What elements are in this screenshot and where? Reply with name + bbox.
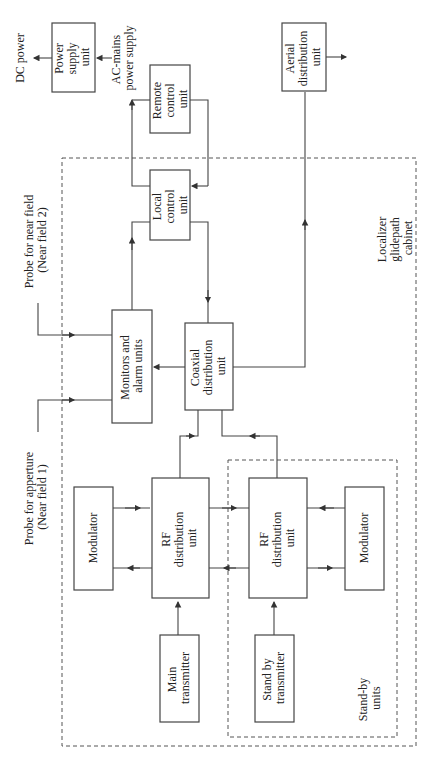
remote-control-unit: Remote control unit	[150, 65, 190, 133]
modulator-main: Modulator	[74, 487, 113, 590]
line-rfstandby-to-coaxial	[222, 410, 277, 478]
coaxial-distribution-unit: Coaxial distribution unit	[185, 323, 233, 410]
line-monitors-to-local	[132, 222, 150, 310]
line-probe-nf2	[38, 303, 112, 335]
main-transmitter: Main transmitter	[160, 635, 199, 722]
line-coaxial-to-aerial	[233, 92, 305, 367]
line-rfmain-to-coaxial	[180, 410, 198, 478]
monitors-alarm-units: Monitors and alarm units	[112, 310, 152, 423]
svg-text:Monitors and alarm units: Monitors and alarm units	[118, 332, 145, 399]
line-remote-to-local	[190, 100, 208, 186]
standby-transmitter: Stand by transmitter	[255, 635, 294, 722]
dc-power-label: DC power	[13, 33, 27, 83]
modulator-standby: Modulator	[345, 487, 384, 590]
line-local-to-remote	[132, 102, 150, 186]
line-probe-aperture	[38, 400, 112, 432]
standby-units-label: Stand-by units	[356, 675, 383, 721]
cabinet-label: Localizer glidepath cabinet	[375, 214, 415, 262]
local-control-unit: Local control unit	[150, 170, 190, 240]
probe-near-field-2-label: Probe for near field (Near field 2)	[22, 192, 49, 289]
svg-text:Modulator: Modulator	[357, 513, 371, 564]
svg-text:Modulator: Modulator	[86, 513, 100, 564]
probe-aperture-label: Probe for apperture (Near field 1)	[22, 449, 49, 545]
rf-distribution-main: RF distribution unit	[152, 478, 209, 598]
ac-mains-label: AC-mains power supply	[109, 26, 136, 91]
cabinet-boundary	[62, 158, 416, 746]
aerial-distribution-unit: Aerial distribution unit	[282, 23, 326, 91]
rf-distribution-standby: RF distribution unit	[249, 478, 307, 598]
svg-text:Stand by transmitter: Stand by transmitter	[260, 652, 287, 704]
power-supply-unit: Power supply unit	[52, 23, 95, 92]
block-diagram: Power supply unit Remote control unit Ae…	[0, 0, 433, 762]
line-local-to-coaxial	[190, 222, 208, 323]
